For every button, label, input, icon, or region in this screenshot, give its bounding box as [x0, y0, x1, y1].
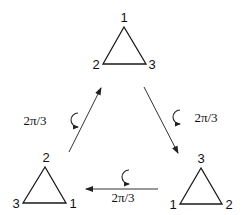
arrow-line	[69, 88, 101, 152]
vertex-label-apex: 2	[42, 150, 49, 165]
vertex-label-left: 2	[92, 57, 99, 72]
rotation-angle-label: 2π/3	[23, 113, 46, 128]
counterclockwise-rotation-icon	[122, 170, 129, 184]
triangle-shape	[180, 168, 222, 204]
vertex-label-right: 3	[148, 57, 155, 72]
arrow-bottom-left-to-top: 2π/3	[23, 88, 101, 152]
vertex-label-left: 1	[169, 197, 176, 212]
rotation-cycle-diagram: 1 2 3 3 1 2 2 3 1 2π/3 2π/3 2π/3	[0, 0, 247, 215]
arrow-line	[144, 87, 178, 153]
counterclockwise-rotation-icon	[173, 110, 180, 124]
triangle-shape	[103, 27, 146, 64]
vertex-label-right: 2	[225, 197, 232, 212]
triangle-bottom-left: 2 3 1	[12, 150, 76, 211]
rotation-angle-label: 2π/3	[111, 190, 134, 205]
arrow-top-to-bottom-right: 2π/3	[144, 87, 218, 153]
vertex-label-right: 1	[69, 196, 76, 211]
rotation-angle-label: 2π/3	[194, 110, 217, 125]
counterclockwise-rotation-icon	[71, 113, 78, 127]
triangle-shape	[23, 167, 66, 203]
arrow-bottom-right-to-bottom-left: 2π/3	[86, 170, 158, 205]
vertex-label-apex: 3	[197, 151, 204, 166]
vertex-label-apex: 1	[120, 10, 127, 25]
triangle-bottom-right: 3 1 2	[169, 151, 232, 212]
vertex-label-left: 3	[12, 196, 19, 211]
triangle-top: 1 2 3	[92, 10, 155, 72]
